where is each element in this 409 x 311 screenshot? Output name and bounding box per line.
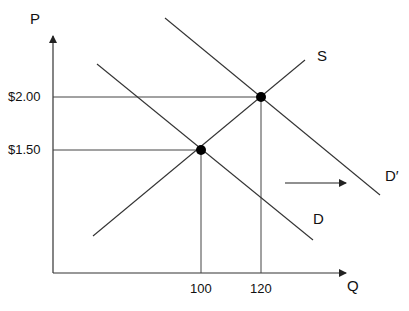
demand-shifted-curve-label: D′	[385, 168, 399, 183]
supply-curve-label: S	[317, 48, 327, 63]
y-axis-label: P	[30, 11, 40, 26]
price-tick-label-1-50: $1.50	[8, 143, 41, 156]
quantity-tick-label-120: 120	[250, 282, 272, 295]
quantity-tick-label-100: 100	[190, 282, 212, 295]
demand-shifted-curve	[165, 18, 380, 195]
demand-curve-label: D	[313, 211, 324, 226]
x-axis-label: Q	[347, 278, 359, 293]
diagram-canvas	[0, 0, 409, 311]
equilibrium-point-new	[256, 92, 266, 102]
price-tick-label-2-00: $2.00	[8, 90, 41, 103]
supply-demand-diagram: P Q $2.00 $1.50 100 120 S D D′	[0, 0, 409, 311]
equilibrium-point-original	[196, 145, 206, 155]
